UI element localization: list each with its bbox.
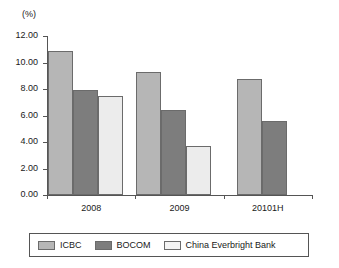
y-axis-tick: 10.00 (0, 63, 47, 64)
y-axis-tick-label: 6.00 (20, 110, 38, 120)
y-axis-tick-label: 4.00 (20, 136, 38, 146)
bar-bocom-2008 (73, 90, 98, 195)
y-axis-tick-label: 10.00 (15, 57, 38, 67)
bar-group (135, 36, 223, 195)
legend-entry-china-everbright-bank: China Everbright Bank (164, 240, 276, 250)
x-axis-label: 20101H (252, 203, 284, 213)
x-axis-tick-mark (47, 195, 48, 199)
y-axis-tick: 0.00 (0, 195, 47, 196)
legend-entry-bocom: BOCOM (95, 240, 151, 250)
bar-china-everbright-bank-2008 (98, 96, 123, 195)
y-axis-tick-label: 12.00 (15, 30, 38, 40)
legend-label: BOCOM (117, 240, 151, 250)
x-axis-label: 2009 (169, 203, 189, 213)
y-axis-unit-label: (%) (22, 9, 36, 19)
legend-swatch-bocom (95, 241, 112, 250)
x-axis-tick-mark (135, 195, 136, 199)
bar-bocom-2009 (161, 110, 186, 195)
legend-swatch-icbc (38, 241, 55, 250)
y-axis-tick-label: 0.00 (20, 189, 38, 199)
bar-group (224, 36, 312, 195)
legend-entry-icbc: ICBC (38, 240, 82, 250)
y-axis-tick: 8.00 (0, 89, 47, 90)
bar-chart-figure: (%) 12.0010.008.006.004.002.000.00 20082… (0, 0, 339, 268)
y-axis-tick-label: 2.00 (20, 163, 38, 173)
bar-icbc-2009 (136, 72, 161, 195)
x-axis-label: 2008 (81, 203, 101, 213)
legend-label: China Everbright Bank (186, 240, 276, 250)
x-axis-tick-mark (224, 195, 225, 199)
bar-china-everbright-bank-2009 (186, 146, 211, 195)
plot-area (47, 36, 312, 195)
y-axis-tick: 2.00 (0, 169, 47, 170)
bar-icbc-2008 (48, 51, 73, 195)
x-axis-line (47, 195, 313, 196)
x-axis-tick-mark (312, 195, 313, 199)
bar-bocom-20101H (262, 121, 287, 195)
y-axis-tick: 4.00 (0, 142, 47, 143)
bar-group (47, 36, 135, 195)
chart-legend: ICBCBOCOMChina Everbright Bank (29, 233, 309, 257)
legend-swatch-china-everbright-bank (164, 241, 181, 250)
y-axis-tick: 6.00 (0, 116, 47, 117)
legend-label: ICBC (60, 240, 82, 250)
bar-icbc-20101H (237, 79, 262, 195)
y-axis-tick: 12.00 (0, 36, 47, 37)
y-axis-tick-label: 8.00 (20, 83, 38, 93)
